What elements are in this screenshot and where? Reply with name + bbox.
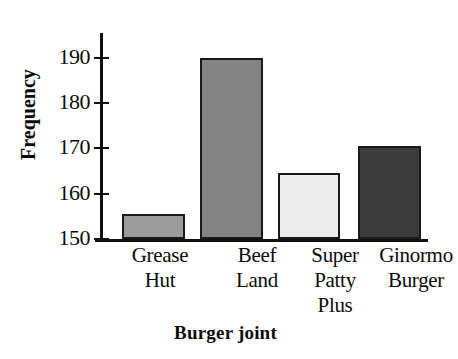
bar-beef-land [200,58,263,239]
category-label-grease-hut: GreaseHut [105,243,215,293]
category-label-line: Ginormo [357,243,458,268]
x-axis-category-labels: GreaseHutBeefLandSuperPattyPlusGinormoBu… [95,243,430,317]
category-label-ginormo-burger: GinormoBurger [357,243,458,293]
category-label-line: Burger [357,268,458,293]
bars-layer [0,0,451,241]
category-label-line: Plus [285,293,385,318]
bar-super-patty-plus [278,173,340,239]
category-label-line: Hut [105,268,215,293]
category-label-line: Grease [105,243,215,268]
bar-grease-hut [122,214,185,239]
x-axis-title: Burger joint [0,322,451,344]
bar-ginormo-burger [358,146,421,239]
